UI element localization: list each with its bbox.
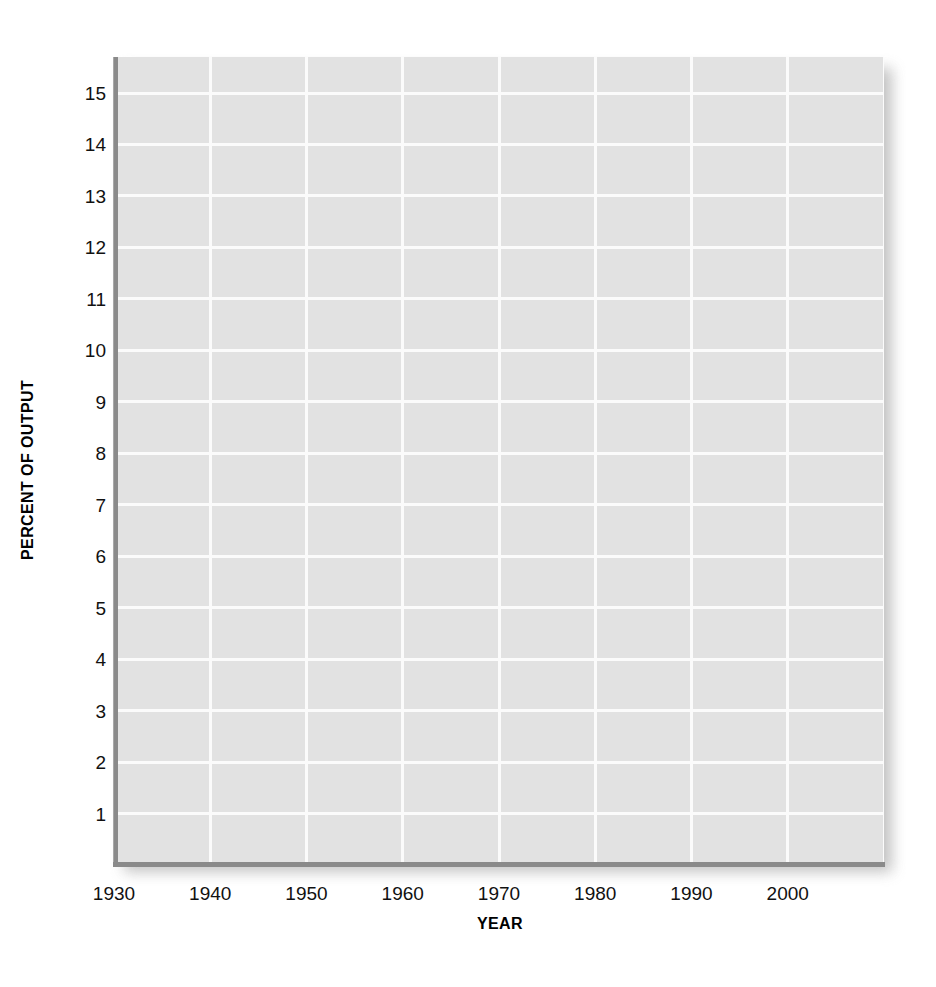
gridline-vertical <box>305 57 308 865</box>
y-tick-label: 13 <box>46 186 106 205</box>
y-axis-title: PERCENT OF OUTPUT <box>19 380 37 560</box>
y-tick-label: 6 <box>46 547 106 566</box>
y-tick-label: 12 <box>46 238 106 257</box>
y-tick-label: 15 <box>46 84 106 103</box>
y-tick-label: 1 <box>46 804 106 823</box>
gridline-vertical <box>883 57 885 865</box>
y-tick-label: 5 <box>46 598 106 617</box>
x-tick-label: 2000 <box>728 884 848 903</box>
y-tick-label: 9 <box>46 392 106 411</box>
y-tick-label: 14 <box>46 135 106 154</box>
gridline-vertical <box>209 57 212 865</box>
y-tick-label: 8 <box>46 444 106 463</box>
x-axis-title: YEAR <box>440 915 560 933</box>
plot-area <box>114 57 884 865</box>
gridline-vertical <box>498 57 501 865</box>
x-axis-line <box>113 862 885 867</box>
gridline-vertical <box>401 57 404 865</box>
y-tick-label: 3 <box>46 701 106 720</box>
y-axis-line <box>113 57 118 867</box>
y-axis-tick-labels: 123456789101112131415 <box>38 0 106 987</box>
gridline-vertical <box>786 57 789 865</box>
gridline-vertical <box>690 57 693 865</box>
y-tick-label: 7 <box>46 495 106 514</box>
y-tick-label: 4 <box>46 650 106 669</box>
chart-figure: 123456789101112131415 193019401950196019… <box>0 0 936 987</box>
y-tick-label: 10 <box>46 341 106 360</box>
gridline-vertical <box>594 57 597 865</box>
y-tick-label: 2 <box>46 753 106 772</box>
y-tick-label: 11 <box>46 289 106 308</box>
